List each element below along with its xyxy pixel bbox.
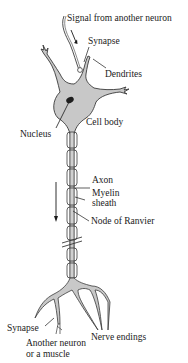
label-node-of-ranvier: Node of Ranvier (91, 216, 154, 226)
label-myelin-2: sheath (92, 198, 116, 208)
label-myelin-1: Myelin (92, 188, 119, 198)
label-target-2: or a muscle (26, 349, 70, 359)
conduction-arrow-icon (54, 182, 58, 222)
synapse-bottom (56, 324, 62, 334)
label-target-1: Another neuron (26, 338, 86, 348)
label-axon: Axon (92, 175, 113, 185)
axon-terminal (35, 278, 110, 330)
label-synapse-bottom: Synapse (7, 323, 39, 333)
neuron-diagram: Signal from another neuron Synapse Dendr… (0, 0, 188, 363)
synapse-top-bulb (78, 68, 83, 73)
signal-arrow-icon (71, 30, 78, 44)
label-nerve-endings: Nerve endings (91, 332, 146, 342)
label-signal: Signal from another neuron (67, 13, 172, 23)
incoming-fiber-2 (65, 16, 81, 70)
label-cell-body: Cell body (86, 117, 123, 127)
myelin-sheath (67, 132, 77, 278)
label-dendrites: Dendrites (105, 69, 142, 79)
label-synapse-top: Synapse (88, 36, 120, 46)
label-nucleus: Nucleus (20, 129, 51, 139)
